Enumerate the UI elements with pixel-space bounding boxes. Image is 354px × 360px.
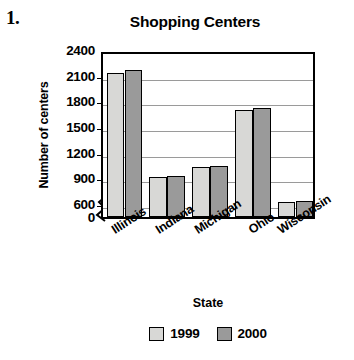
y-axis-tick-label: 0 [41,210,95,225]
chart-title: Shopping Centers [80,13,310,31]
bar-group [146,54,189,217]
bar-group [231,54,274,217]
bar-illinois-1999 [107,73,125,217]
plot-area [101,52,315,219]
y-axis-tick-label: 900 [41,171,95,186]
y-axis-tick-label: 1800 [41,94,95,109]
legend-label-1999: 1999 [170,326,199,341]
bar-ohio-2000 [253,108,271,217]
problem-number: 1. [6,8,19,27]
legend-label-2000: 2000 [238,326,267,341]
y-axis-tick-label: 2400 [41,43,95,58]
legend-swatch-1999 [149,327,164,341]
y-axis-tick-label: 600 [41,197,95,212]
y-axis-tick-label: 1200 [41,146,95,161]
y-axis-tick-label: 2100 [41,69,95,84]
chart-legend: 19992000 [101,326,315,341]
legend-swatch-2000 [217,327,232,341]
bar-series-container [103,54,313,217]
legend-entry-2000: 2000 [217,326,267,341]
x-axis-title: State [101,296,315,310]
bar-group [274,54,317,217]
bar-group [189,54,232,217]
bar-indiana-1999 [149,177,167,217]
bar-group [103,54,146,217]
bar-michigan-1999 [192,167,210,217]
y-axis-tick-label: 1500 [41,120,95,135]
legend-entry-1999: 1999 [149,326,199,341]
bar-illinois-2000 [125,70,143,217]
